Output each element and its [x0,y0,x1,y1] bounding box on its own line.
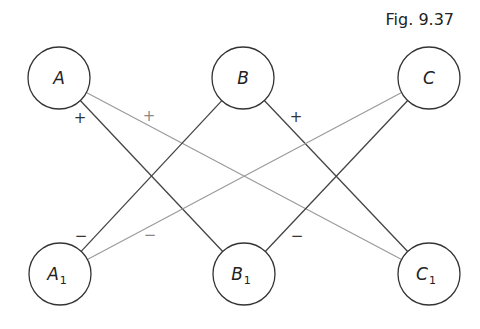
minus-sign: − [75,227,88,245]
node-C1: C1 [398,243,460,305]
node-label: C [423,68,435,88]
node-label: A [52,68,65,88]
plus-sign: + [74,109,87,127]
node-A1: A1 [29,243,91,305]
node-C: C [398,47,460,109]
bipartite-diagram: ABCA1B1C1 +++−−− [0,0,480,329]
minus-sign: − [291,227,304,245]
plus-sign: + [143,107,156,125]
node-label: B [237,68,249,88]
plus-sign: + [290,108,303,126]
node-B1: B1 [213,243,275,305]
minus-sign: − [144,226,157,244]
signs-group: +++−−− [74,107,304,245]
node-B: B [212,47,274,109]
edges-group [80,93,407,260]
node-A: A [28,47,90,109]
